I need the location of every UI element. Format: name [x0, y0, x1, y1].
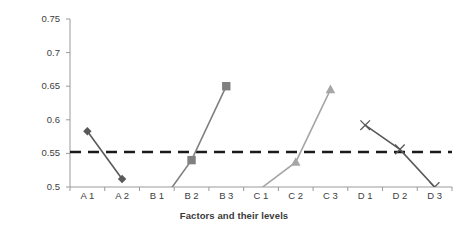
series-line — [365, 125, 434, 187]
y-tick-label: 0.55 — [14, 148, 60, 158]
data-point-marker — [326, 85, 336, 94]
y-tick-label: 0.5 — [14, 182, 60, 192]
y-tick-label: 0.6 — [14, 115, 60, 125]
data-point-marker — [187, 156, 195, 164]
series-1 — [83, 127, 126, 183]
series-3 — [261, 85, 335, 189]
x-tick-label: D 3 — [413, 190, 457, 201]
series-4 — [360, 120, 439, 191]
x-axis-title: Factors and their levels — [0, 210, 468, 221]
data-point-marker — [291, 157, 301, 166]
y-tick-label: 0.65 — [14, 81, 60, 91]
data-point-marker — [360, 120, 370, 130]
plot-area — [0, 0, 468, 237]
series-line — [261, 90, 330, 189]
y-tick-label: 0.7 — [14, 48, 60, 58]
y-tick-label: 0.75 — [14, 14, 60, 24]
series-line — [87, 131, 122, 179]
data-point-marker — [222, 82, 230, 90]
chart-container: Grey Relational Grade Factors and their … — [0, 0, 468, 237]
